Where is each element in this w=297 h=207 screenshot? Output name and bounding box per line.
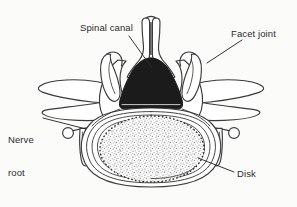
- disk: [81, 108, 220, 187]
- label-nerve-root: Nerve root: [8, 112, 34, 200]
- vertebra-outline: [38, 16, 263, 187]
- label-nerve-root-line1: Nerve: [8, 134, 34, 145]
- spinal-canal: [119, 58, 182, 109]
- label-nerve-root-line2: root: [8, 167, 34, 178]
- anatomy-figure: Spinal canal Facet joint Nerve root Disk: [0, 0, 297, 207]
- label-facet-joint: Facet joint: [231, 28, 276, 39]
- facet-joint-leader: [207, 40, 242, 63]
- label-disk: Disk: [237, 168, 256, 179]
- label-spinal-canal: Spinal canal: [80, 22, 133, 33]
